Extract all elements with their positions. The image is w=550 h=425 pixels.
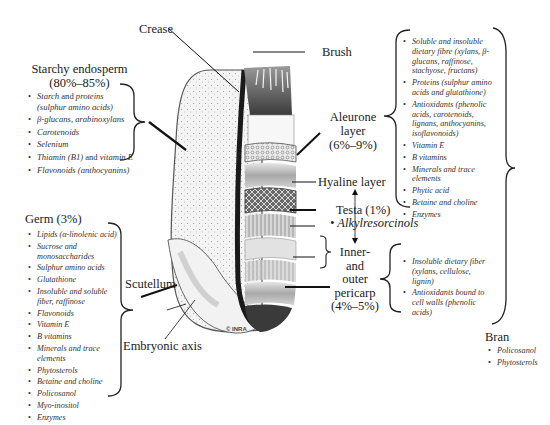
- starchy-endosperm-list: Starch and proteins(sulphur amino acids)…: [28, 91, 138, 177]
- list-item: Policosanol: [28, 389, 120, 399]
- list-item: Flavonoids: [28, 309, 120, 319]
- label-pericarp: Inner- and outer pericarp (4%–5%): [330, 246, 380, 314]
- label-crease: Crease: [139, 22, 173, 36]
- list-item: Vitamin E: [403, 141, 499, 151]
- list-item: Betaine and choline: [403, 198, 499, 208]
- list-item: Enzymes: [28, 413, 120, 423]
- label-bran: Bran: [485, 330, 509, 344]
- list-item: Enzymes: [403, 210, 499, 220]
- list-item: β-glucans, arabinoxylans: [28, 114, 138, 125]
- pericarp-list: Insoluble dietary fiber (xylans, cellulo…: [403, 257, 489, 320]
- label-scutellum: Scutellum: [125, 277, 176, 291]
- label-testa: Testa (1%): [336, 203, 390, 217]
- list-item: Phytic acid: [403, 186, 499, 196]
- list-item: Phytosterols: [488, 358, 550, 368]
- list-item: Starch and proteins(sulphur amino acids): [28, 91, 138, 112]
- label-aleurone-layer: Aleurone layer (6%–9%): [318, 110, 388, 152]
- watermark: © INRA: [226, 326, 247, 332]
- list-item: Antioxidants bound to cell walls (phenol…: [403, 288, 489, 317]
- label-germ: Germ (3%): [25, 212, 82, 226]
- list-item: B vitamins: [403, 153, 499, 163]
- list-item: Flavonoids (anthocyanins): [28, 165, 138, 176]
- list-item: Antioxidants (phenolic acids, carotenoid…: [403, 100, 499, 139]
- list-item: Insoluble and soluble fiber, raffinose: [28, 287, 120, 307]
- germ-list: Lipids (α-linolenic acid) Sucrose and mo…: [28, 230, 120, 425]
- list-item: Sulphur amino acids: [28, 263, 120, 273]
- label-starchy-endosperm-pct: (80%–85%): [22, 76, 137, 90]
- list-item: Selenium: [28, 139, 138, 150]
- list-item: Phytosterols: [28, 366, 120, 376]
- bran-list: Policosanol Phytosterols: [488, 346, 550, 370]
- label-starchy-endosperm-title: Starchy endosperm: [22, 62, 137, 76]
- list-item: Betaine and choline: [28, 377, 120, 387]
- list-item: Lipids (α-linolenic acid): [28, 230, 120, 240]
- aleurone-list: Soluble and insoluble dietary fibre (xyl…: [403, 37, 499, 222]
- list-item: Glutathione: [28, 275, 120, 285]
- list-item: Soluble and insoluble dietary fibre (xyl…: [403, 37, 499, 76]
- list-item: Insoluble dietary fiber (xylans, cellulo…: [403, 257, 489, 286]
- list-item: Minerals and trace elements: [28, 344, 120, 364]
- list-item: Thiamin (B1) and vitamin E: [28, 152, 138, 163]
- list-item: Vitamin E: [28, 320, 120, 330]
- label-hyaline-layer: Hyaline layer: [318, 175, 386, 189]
- list-item: Proteins (sulphur amino acids and glutat…: [403, 78, 499, 98]
- list-item: Minerals and trace elements: [403, 165, 499, 185]
- list-item: Policosanol: [488, 346, 550, 356]
- label-embryonic-axis: Embryonic axis: [123, 339, 202, 353]
- label-starchy-endosperm: Starchy endosperm (80%–85%): [22, 62, 137, 90]
- label-brush: Brush: [322, 45, 352, 59]
- list-item: Myo-inositol: [28, 401, 120, 411]
- list-item: Sucrose and monosaccharides: [28, 242, 120, 262]
- list-item: Carotenoids: [28, 127, 138, 138]
- list-item: B vitamins: [28, 332, 120, 342]
